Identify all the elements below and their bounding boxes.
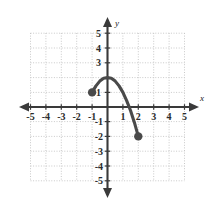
x-tick-label: -5: [26, 111, 34, 122]
x-tick-label: 4: [167, 111, 172, 122]
curve-endpoint-right-dot: [134, 132, 142, 140]
y-tick-label: 1: [96, 87, 101, 98]
x-tick-label: 5: [182, 111, 187, 122]
x-tick-label: 1: [120, 111, 125, 122]
x-tick-label: 2: [136, 111, 141, 122]
y-tick-label: 5: [96, 28, 101, 39]
x-tick-label: 3: [151, 111, 156, 122]
y-tick-label: 4: [96, 43, 101, 54]
x-tick-label: -4: [42, 111, 50, 122]
graph-figure: -5 -4 -3 -2 -1 1 2 3 4 5 5 4 3 1 -1 -2 -…: [0, 0, 217, 203]
x-axis-label: x: [199, 93, 204, 103]
y-tick-label: -2: [95, 131, 103, 142]
y-tick-label: -3: [95, 146, 103, 157]
curve-endpoint-left-dot: [88, 88, 96, 96]
y-axis-label: y: [114, 18, 119, 28]
y-tick-label: -1: [95, 116, 103, 127]
x-tick-label: -3: [57, 111, 65, 122]
y-tick-label: 3: [96, 57, 101, 68]
y-tick-label: -5: [95, 175, 103, 186]
coordinate-plane-svg: -5 -4 -3 -2 -1 1 2 3 4 5 5 4 3 1 -1 -2 -…: [0, 0, 217, 203]
y-tick-label: -4: [95, 161, 103, 172]
x-tick-label: -2: [73, 111, 81, 122]
